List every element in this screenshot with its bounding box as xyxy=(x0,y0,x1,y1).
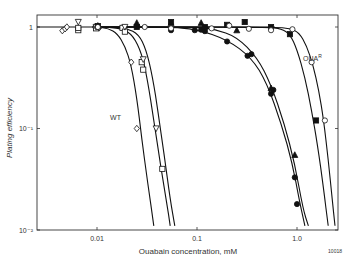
y-tick-label: 10⁻¹ xyxy=(19,125,34,132)
inverted-triangle-marker xyxy=(153,126,159,132)
chart: 0.010.11.0110⁻¹10⁻² Ouabain concentratio… xyxy=(0,0,354,266)
square-marker xyxy=(141,67,146,72)
curve-label: OUAR xyxy=(303,53,322,62)
circle-marker xyxy=(322,118,327,123)
circle-marker xyxy=(227,23,232,28)
inverted-triangle-marker xyxy=(75,19,81,25)
x-tick-label: 0.01 xyxy=(90,235,104,242)
square-marker xyxy=(134,24,139,29)
y-tick-label: 1 xyxy=(29,24,33,31)
square-marker xyxy=(76,25,81,30)
circle-marker xyxy=(292,175,297,180)
x-tick-label: 1.0 xyxy=(292,235,302,242)
circle-marker xyxy=(192,28,197,33)
data-markers xyxy=(60,19,328,206)
circle-marker xyxy=(209,26,214,31)
x-tick-label: 0.1 xyxy=(192,235,202,242)
square-marker xyxy=(313,118,318,123)
x-axis-label: Ouabain concentration, mM xyxy=(139,247,238,256)
triangle-marker xyxy=(234,27,240,33)
fitted-curves xyxy=(97,27,335,226)
circle-marker xyxy=(168,26,173,31)
plot-axes: 0.010.11.0110⁻¹10⁻² xyxy=(19,15,338,242)
circle-marker xyxy=(271,87,276,92)
circle-marker xyxy=(249,52,254,57)
circle-marker xyxy=(294,201,299,206)
figure-id: 10018 xyxy=(328,248,342,254)
plot-frame xyxy=(37,15,338,230)
diamond-marker xyxy=(134,125,139,131)
square-marker xyxy=(202,24,207,29)
circle-marker xyxy=(225,39,230,44)
circle-marker xyxy=(95,24,100,29)
square-marker xyxy=(168,19,173,24)
circle-marker xyxy=(246,26,251,31)
circle-marker xyxy=(268,28,273,33)
y-tick-label: 10⁻² xyxy=(19,227,34,234)
fit-curve xyxy=(97,27,328,226)
y-axis-label: Plating efficiency xyxy=(5,97,14,158)
square-marker xyxy=(287,32,292,37)
curve-label: WT xyxy=(110,114,122,121)
square-marker xyxy=(160,166,165,171)
circle-marker xyxy=(142,24,147,29)
circle-marker xyxy=(290,27,295,32)
square-marker xyxy=(242,19,247,24)
